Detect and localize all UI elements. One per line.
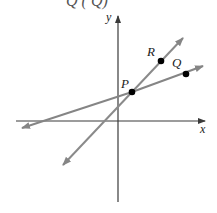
y-axis-label: y <box>105 10 112 24</box>
line-pq <box>22 66 203 128</box>
point-r <box>158 58 165 65</box>
point-p <box>129 89 136 96</box>
point-q <box>183 71 190 78</box>
point-q-label: Q <box>172 55 182 70</box>
line-pr <box>63 38 183 165</box>
header-text-fragment: Q ( Q) <box>66 0 108 10</box>
coordinate-diagram: Q ( Q) x y P Q R <box>0 0 217 213</box>
point-p-label: P <box>120 76 129 91</box>
point-r-label: R <box>146 44 155 59</box>
x-axis-label: x <box>199 122 206 136</box>
